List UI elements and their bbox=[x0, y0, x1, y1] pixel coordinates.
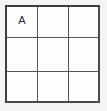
grid-cell-label: A bbox=[18, 15, 25, 26]
grid-cell-r1c3[interactable] bbox=[69, 7, 98, 38]
grid-cell-r3c3[interactable] bbox=[69, 72, 98, 101]
grid-cell-r3c1[interactable] bbox=[7, 72, 38, 101]
grid-cell-r1c2[interactable] bbox=[38, 7, 69, 38]
grid-cell-r3c2[interactable] bbox=[38, 72, 69, 101]
grid-container: A bbox=[5, 5, 100, 103]
grid-cell-r1c1[interactable]: A bbox=[7, 7, 38, 38]
grid-cell-r2c1[interactable] bbox=[7, 38, 38, 72]
grid-cell-r2c2[interactable] bbox=[38, 38, 69, 72]
grid-cell-r2c3[interactable] bbox=[69, 38, 98, 72]
